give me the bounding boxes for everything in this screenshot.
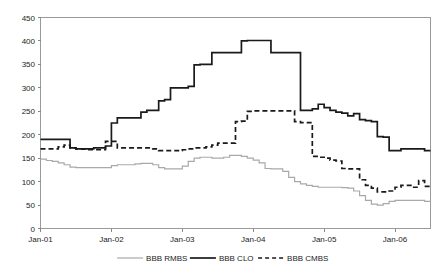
chart-container: 050100150200250300350400450 Jan-01Jan-02…	[0, 0, 448, 272]
y-tick-100: 100	[22, 178, 36, 187]
y-tick-150: 150	[22, 154, 36, 163]
chart-legend: BBB RMBSBBB CLOBBB CMBS	[117, 254, 328, 263]
spreads-line-chart: 050100150200250300350400450 Jan-01Jan-02…	[0, 0, 448, 272]
legend-label-bbb-cmbs: BBB CMBS	[287, 254, 328, 263]
x-tick-jan-06: Jan-06	[383, 235, 408, 244]
legend-label-bbb-rmbs: BBB RMBS	[146, 254, 187, 263]
y-tick-0: 0	[31, 225, 36, 234]
x-tick-jan-04: Jan-04	[241, 235, 266, 244]
y-tick-350: 350	[22, 60, 36, 69]
x-tick-jan-02: Jan-02	[99, 235, 124, 244]
y-tick-450: 450	[22, 14, 36, 23]
y-tick-50: 50	[26, 201, 35, 210]
x-tick-jan-05: Jan-05	[312, 235, 337, 244]
x-tick-jan-03: Jan-03	[170, 235, 195, 244]
y-tick-250: 250	[22, 107, 36, 116]
legend-label-bbb-clo: BBB CLO	[219, 254, 254, 263]
y-tick-400: 400	[22, 37, 36, 46]
y-tick-200: 200	[22, 131, 36, 140]
y-tick-300: 300	[22, 84, 36, 93]
x-tick-jan-01: Jan-01	[28, 235, 53, 244]
